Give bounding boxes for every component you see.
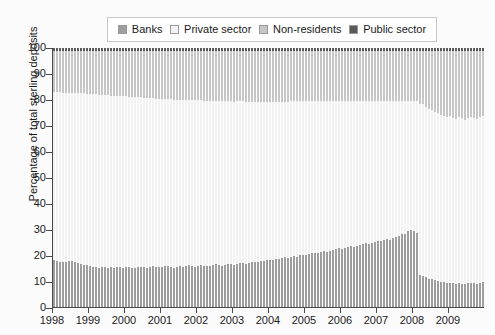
bar-segment-banks [119, 267, 121, 307]
bar-segment-private-sector [317, 101, 319, 253]
bar-segment-non-residents [332, 51, 334, 102]
bar-segment-non-residents [185, 51, 187, 100]
bar-segment-private-sector [65, 93, 67, 262]
legend-entry[interactable]: Non-residents [259, 24, 341, 35]
bar-segment-banks [122, 268, 124, 307]
bar-segment-private-sector [62, 93, 64, 263]
bar-segment-private-sector [398, 101, 400, 236]
bar-segment-private-sector [179, 100, 181, 267]
bar-segment-banks [401, 234, 403, 307]
bar-segment-non-residents [179, 51, 181, 100]
bar-segment-private-sector [335, 101, 337, 249]
x-tick-mark [160, 308, 161, 313]
x-tick-mark [124, 308, 125, 313]
bar-segment-banks [413, 231, 415, 307]
bar-segment-banks [290, 257, 292, 307]
bar-segment-banks [140, 267, 142, 307]
bar-segment-private-sector [392, 101, 394, 238]
bar-segment-non-residents [95, 51, 97, 95]
bar-segment-private-sector [329, 101, 331, 250]
bar-segment-banks [464, 284, 466, 307]
bar-segment-banks [56, 261, 58, 307]
bar-segment-non-residents [68, 51, 70, 93]
bar-segment-banks [212, 265, 214, 307]
bar-segment-private-sector [341, 101, 343, 249]
bar-segment-non-residents [431, 51, 433, 110]
bar-segment-non-residents [170, 51, 172, 100]
bar-segment-private-sector [125, 96, 127, 267]
legend-entry[interactable]: Public sector [349, 24, 426, 35]
bar-segment-banks [254, 262, 256, 307]
chart-figure: BanksPrivate sectorNon-residentsPublic s… [0, 0, 495, 335]
bar-segment-private-sector [359, 101, 361, 244]
bar-segment-private-sector [92, 94, 94, 266]
bar-segment-non-residents [284, 51, 286, 102]
bar-segment-private-sector [209, 101, 211, 266]
bar-segment-private-sector [155, 99, 157, 267]
x-tick-mark [304, 308, 305, 313]
bar-segment-non-residents [152, 51, 154, 99]
bar-segment-banks [164, 266, 166, 307]
bar-segment-banks [80, 264, 82, 307]
bar-segment-non-residents [323, 51, 325, 102]
bar-segment-banks [410, 230, 412, 307]
bar-segment-banks [227, 264, 229, 307]
bar-segment-private-sector [404, 101, 406, 234]
bar-segment-banks [185, 266, 187, 307]
bar-segment-private-sector [266, 102, 268, 261]
bar-segment-banks [326, 252, 328, 307]
y-tick-label-wrap: 50 [0, 172, 46, 183]
bar-segment-banks [320, 252, 322, 307]
bar-segment-non-residents [233, 51, 235, 102]
bar-segment-banks [419, 275, 421, 307]
legend-entry[interactable]: Banks [118, 24, 163, 35]
bar-segment-banks [437, 281, 439, 307]
bar-segment-non-residents [101, 51, 103, 95]
bar-segment-private-sector [401, 101, 403, 234]
bar-segment-private-sector [248, 102, 250, 263]
bar-segment-banks [116, 267, 118, 307]
legend-entry[interactable]: Private sector [170, 24, 251, 35]
bar-segment-private-sector [260, 102, 262, 262]
bar-segment-non-residents [149, 51, 151, 99]
bar-segment-banks [245, 264, 247, 308]
bar-segment-non-residents [242, 51, 244, 102]
bar-segment-banks [230, 264, 232, 307]
bar-segment-banks [125, 267, 127, 307]
legend-swatch-icon [349, 25, 358, 34]
bar-segment-private-sector [323, 101, 325, 251]
bar-segment-non-residents [137, 51, 139, 98]
bar-segment-banks [170, 267, 172, 307]
bar-segment-banks [470, 283, 472, 307]
bar-segment-banks [482, 282, 484, 307]
bar-segment-non-residents [98, 51, 100, 95]
bar-segment-private-sector [68, 93, 70, 261]
bar-segment-banks [416, 233, 418, 307]
bar-segment-private-sector [296, 101, 298, 256]
bar-segment-banks [431, 279, 433, 307]
bar-segment-private-sector [350, 101, 352, 246]
bar-segment-private-sector [428, 109, 430, 279]
bar-segment-banks [344, 248, 346, 307]
bar-segment-non-residents [254, 51, 256, 102]
bar-segment-non-residents [275, 51, 277, 102]
bar-segment-banks [224, 265, 226, 307]
chart-legend: BanksPrivate sectorNon-residentsPublic s… [107, 17, 437, 42]
bar-segment-non-residents [266, 51, 268, 102]
bar-segment-non-residents [80, 51, 82, 93]
bar-segment-private-sector [176, 100, 178, 267]
bar-segment-banks [251, 262, 253, 307]
bar-segment-non-residents [128, 51, 130, 97]
y-tick-label: 60 [6, 146, 46, 157]
bar-segment-private-sector [161, 99, 163, 267]
bar-segment-private-sector [308, 101, 310, 254]
bar-segment-non-residents [278, 51, 280, 102]
bar-segment-private-sector [326, 101, 328, 251]
bar-segment-private-sector [374, 101, 376, 242]
bar-segment-banks [92, 267, 94, 307]
bar-segment-non-residents [122, 51, 124, 97]
bar-segment-banks [101, 267, 103, 307]
bar-segment-private-sector [191, 100, 193, 266]
bar-segment-banks [383, 240, 385, 307]
bar-segment-banks [371, 243, 373, 307]
